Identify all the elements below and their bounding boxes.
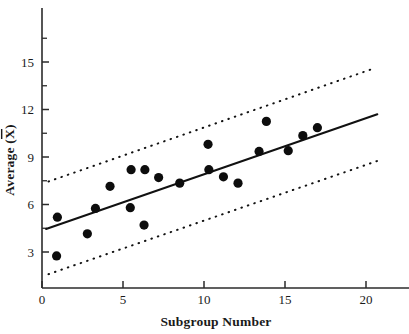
upper-limit-line bbox=[48, 68, 374, 181]
y-axis-title-group: Average (X) bbox=[2, 124, 18, 195]
scatter-chart: 3691215 05101520 Subgroup Number Average… bbox=[0, 0, 409, 334]
lower-limit-line bbox=[48, 161, 377, 274]
y-tick-label-6: 6 bbox=[28, 197, 35, 212]
data-point bbox=[105, 182, 114, 191]
y-tick-label-9: 9 bbox=[28, 150, 35, 165]
y-axis-title: Average (X) bbox=[2, 124, 17, 195]
data-point bbox=[140, 165, 149, 174]
data-point bbox=[298, 131, 307, 140]
data-point bbox=[154, 173, 163, 182]
data-point bbox=[53, 213, 62, 222]
y-axis-ticks: 3691215 bbox=[21, 38, 49, 259]
data-point bbox=[83, 229, 92, 238]
data-point bbox=[219, 172, 228, 181]
data-point bbox=[126, 203, 135, 212]
data-point bbox=[254, 147, 263, 156]
x-axis-title: Subgroup Number bbox=[160, 314, 271, 329]
y-tick-label-3: 3 bbox=[28, 245, 35, 260]
data-point bbox=[313, 123, 322, 132]
x-tick-label-15: 15 bbox=[279, 292, 292, 307]
data-point bbox=[139, 220, 148, 229]
data-point bbox=[52, 251, 61, 260]
x-tick-label-20: 20 bbox=[360, 292, 373, 307]
data-point bbox=[233, 179, 242, 188]
data-point bbox=[91, 204, 100, 213]
x-axis-ticks: 05101520 bbox=[39, 281, 373, 307]
data-point bbox=[204, 165, 213, 174]
y-tick-label-12: 12 bbox=[21, 102, 34, 117]
y-tick-label-15: 15 bbox=[21, 55, 34, 70]
chart-canvas: 3691215 05101520 Subgroup Number Average… bbox=[0, 0, 409, 334]
x-tick-label-0: 0 bbox=[39, 292, 46, 307]
data-point bbox=[175, 179, 184, 188]
data-point bbox=[127, 165, 136, 174]
x-tick-label-5: 5 bbox=[120, 292, 127, 307]
data-points-layer bbox=[52, 117, 322, 261]
data-point bbox=[262, 117, 271, 126]
data-point bbox=[203, 140, 212, 149]
data-point bbox=[284, 146, 293, 155]
x-tick-label-10: 10 bbox=[198, 292, 211, 307]
